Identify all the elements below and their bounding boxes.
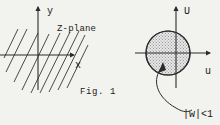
z-plane-label: Z-plane [57,24,96,34]
figure-caption: Fig. 1 [80,87,116,97]
figure-container: y x Z-plane Fig. 1 U u |w|<1 [0,0,220,125]
z-plane-x-axis-label: x [75,60,81,71]
w-plane-v-axis-label: U [184,6,190,17]
w-plane-u-axis-label: u [205,66,211,77]
z-plane-y-axis-label: y [47,6,53,17]
unit-disk-condition-label: |w|<1 [183,109,213,120]
figure-canvas: y x Z-plane Fig. 1 U u |w|<1 [0,0,220,125]
